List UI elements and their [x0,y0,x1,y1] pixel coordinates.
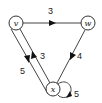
arrow-right-icon [49,20,56,26]
edge-x-x: 5 [58,82,79,99]
node-v: v [9,16,23,30]
node-x: x [46,82,60,96]
edge-w-x: 4 [57,30,85,83]
edge-v-w: 3 [23,6,81,26]
edge-weight-x-v: 3 [40,51,45,61]
weighted-digraph: 3 5 3 4 5 v w x [0,0,102,103]
node-label-v: v [14,19,19,28]
node-w: w [81,16,95,30]
edge-weight-x-x: 5 [74,89,79,99]
edge-v-x: 5 [11,29,48,94]
arrow-down-icon [24,55,30,63]
node-label-x: x [51,85,56,94]
edge-weight-v-w: 3 [48,6,53,16]
edge-weight-v-x: 5 [20,66,25,76]
edge-weight-w-x: 4 [77,51,82,61]
node-label-w: w [85,19,92,28]
